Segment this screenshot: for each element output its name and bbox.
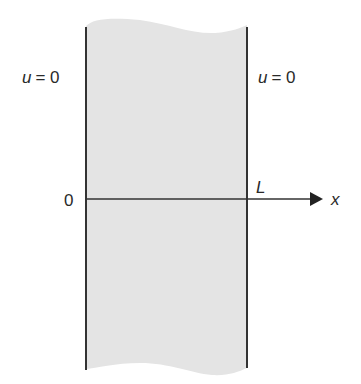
origin-label: 0 xyxy=(64,191,73,210)
length-label: L xyxy=(256,178,265,197)
x-axis-arrowhead-icon xyxy=(310,192,323,206)
x-axis-label: x xyxy=(330,190,340,209)
right-boundary-condition: u= 0 xyxy=(258,68,296,87)
left-boundary-condition: u= 0 xyxy=(22,68,60,87)
slab-region xyxy=(86,19,247,376)
slab-diagram: u= 0 u= 0 0 L x xyxy=(0,0,361,384)
